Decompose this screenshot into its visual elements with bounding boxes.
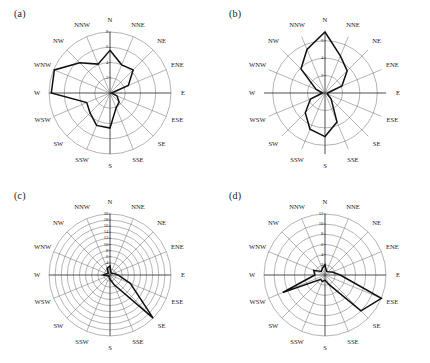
panel-c: (c)2468101214161820NNNENEENEEESESESSESSS… — [0, 182, 215, 363]
direction-label-ese: ESE — [172, 116, 184, 123]
tick-label: 8 — [106, 248, 109, 253]
tick-label: 18 — [104, 217, 109, 222]
panel-a-data-series — [51, 50, 133, 128]
direction-label-nnw: NNW — [289, 21, 306, 28]
direction-label-nnw: NNW — [74, 203, 91, 210]
direction-label-ene: ENE — [386, 243, 399, 250]
direction-label-nne: NNE — [131, 203, 145, 210]
panel-c-plot: 2468101214161820NNNENEENEEESESESSESSSWSW… — [0, 182, 215, 363]
tick-label: 12 — [104, 235, 109, 240]
direction-label-n: N — [323, 16, 328, 23]
direction-label-ene: ENE — [171, 243, 184, 250]
direction-label-se: SE — [158, 322, 166, 329]
direction-label-ese: ESE — [172, 298, 184, 305]
tick-label: 4 — [321, 252, 324, 257]
direction-label-ne: NE — [157, 37, 166, 44]
direction-label-sw: SW — [268, 322, 279, 329]
direction-label-n: N — [108, 198, 113, 205]
tick-label: 8 — [321, 231, 324, 236]
panel-d: (d)24681012NNNENEENEEESESESSESSSWSWWSWWW… — [215, 182, 430, 363]
direction-label-ne: NE — [157, 219, 166, 226]
direction-label-s: S — [108, 162, 112, 169]
direction-label-sse: SSE — [347, 156, 358, 163]
tick-label: 12 — [319, 211, 324, 216]
direction-label-n: N — [108, 16, 113, 23]
direction-label-w: W — [34, 271, 41, 278]
tick-label: 8 — [106, 29, 109, 34]
direction-label-nne: NNE — [131, 21, 145, 28]
tick-label: 6 — [106, 44, 109, 49]
tick-label: 2 — [321, 73, 324, 78]
direction-label-e: E — [181, 89, 185, 96]
direction-label-e: E — [181, 271, 185, 278]
direction-label-nne: NNE — [346, 203, 360, 210]
direction-label-sse: SSE — [132, 338, 143, 345]
direction-label-s: S — [108, 344, 112, 351]
direction-label-sse: SSE — [132, 156, 143, 163]
direction-label-e: E — [396, 89, 400, 96]
direction-label-wsw: WSW — [34, 116, 51, 123]
direction-label-nw: NW — [53, 37, 65, 44]
direction-label-se: SE — [158, 140, 166, 147]
direction-label-s: S — [323, 162, 327, 169]
panel-d-plot: 24681012NNNENEENEEESESESSESSSWSWWSWWWNWN… — [215, 182, 430, 363]
direction-label-nne: NNE — [346, 21, 360, 28]
direction-label-s: S — [323, 344, 327, 351]
direction-label-w: W — [34, 89, 41, 96]
direction-label-ne: NE — [372, 219, 381, 226]
direction-label-ssw: SSW — [290, 338, 304, 345]
direction-label-ese: ESE — [387, 298, 399, 305]
direction-label-sw: SW — [268, 140, 279, 147]
direction-label-nw: NW — [53, 219, 65, 226]
tick-label: 4 — [106, 260, 109, 265]
direction-label-nnw: NNW — [74, 21, 91, 28]
tick-label: 2 — [106, 75, 109, 80]
direction-label-wnw: WNW — [249, 243, 267, 250]
direction-label-wsw: WSW — [34, 298, 51, 305]
direction-label-w: W — [249, 89, 256, 96]
direction-label-ssw: SSW — [75, 338, 89, 345]
direction-label-nw: NW — [268, 219, 280, 226]
direction-label-ese: ESE — [387, 116, 399, 123]
panel-b-plot: 246NNNENEENEEESESESSESSSWSWWSWWWNWNWNNW — [215, 0, 430, 181]
wind-rose-figure: (a)2468NNNENEENEEESESESSESSSWSWWSWWWNWNW… — [0, 0, 430, 363]
direction-label-nnw: NNW — [289, 203, 306, 210]
direction-label-wnw: WNW — [249, 61, 267, 68]
direction-label-wsw: WSW — [249, 116, 266, 123]
direction-label-se: SE — [373, 322, 381, 329]
direction-label-w: W — [249, 271, 256, 278]
tick-label: 4 — [106, 60, 109, 65]
tick-label: 20 — [104, 211, 109, 216]
direction-label-ssw: SSW — [75, 156, 89, 163]
tick-label: 16 — [104, 223, 109, 228]
direction-label-sw: SW — [53, 322, 64, 329]
panel-a: (a)2468NNNENEENEEESESESSESSSWSWWSWWWNWNW… — [0, 0, 215, 181]
direction-label-ssw: SSW — [290, 156, 304, 163]
direction-label-ene: ENE — [386, 61, 399, 68]
grid-spokes — [264, 214, 386, 336]
direction-label-wnw: WNW — [34, 61, 52, 68]
direction-label-ene: ENE — [171, 61, 184, 68]
tick-label: 10 — [104, 242, 109, 247]
direction-label-ne: NE — [372, 37, 381, 44]
tick-label: 6 — [321, 242, 324, 247]
tick-label: 6 — [106, 254, 109, 259]
panel-b: (b)246NNNENEENEEESESESSESSSWSWWSWWWNWNWN… — [215, 0, 430, 181]
tick-label: 10 — [319, 221, 324, 226]
direction-label-e: E — [396, 271, 400, 278]
tick-label: 6 — [321, 38, 324, 43]
tick-label: 14 — [104, 229, 109, 234]
direction-label-n: N — [323, 198, 328, 205]
direction-label-wnw: WNW — [34, 243, 52, 250]
tick-label: 4 — [321, 55, 324, 60]
direction-label-sse: SSE — [347, 338, 358, 345]
direction-label-sw: SW — [53, 140, 64, 147]
direction-label-nw: NW — [268, 37, 280, 44]
panel-a-plot: 2468NNNENEENEEESESESSESSSWSWWSWWWNWNWNNW — [0, 0, 215, 181]
direction-label-se: SE — [373, 140, 381, 147]
direction-label-wsw: WSW — [249, 298, 266, 305]
